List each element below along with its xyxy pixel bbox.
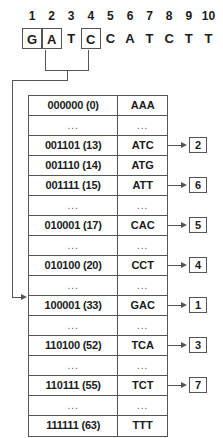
table-cell-code: 000000 (0) (29, 96, 118, 115)
sequence-base-1[interactable]: G (22, 28, 42, 49)
codon-lookup-table: 000000 (0)AAA......001101 (13)ATC001110 … (28, 95, 168, 437)
output-index-box-6[interactable]: 6 (189, 177, 207, 193)
sequence-base-10[interactable]: T (198, 28, 218, 49)
position-label-7: 7 (140, 7, 160, 25)
table-row-ellipsis[interactable]: ...... (29, 116, 167, 136)
table-row-ellipsis[interactable]: ...... (29, 276, 167, 296)
output-index-box-2[interactable]: 2 (189, 137, 207, 153)
table-cell-codon: ... (118, 356, 167, 375)
table-row[interactable]: 110100 (52)TCA (29, 336, 167, 356)
table-cell-code: 100001 (33) (29, 296, 118, 315)
connector-to-left-rail (12, 80, 68, 81)
position-label-4: 4 (81, 7, 101, 25)
table-cell-codon: ... (118, 116, 167, 135)
table-cell-codon: AAA (118, 96, 167, 115)
table-cell-code: ... (29, 356, 118, 375)
table-row[interactable]: 001101 (13)ATC (29, 136, 167, 156)
output-arrowhead-1 (181, 302, 187, 308)
table-row[interactable]: 000000 (0)AAA (29, 96, 167, 116)
sequence-base-3[interactable]: T (61, 28, 81, 49)
table-cell-codon: ... (118, 396, 167, 415)
output-index-box-5[interactable]: 5 (189, 217, 207, 233)
table-cell-code: ... (29, 196, 118, 215)
sequence-base-7[interactable]: T (140, 28, 160, 49)
position-label-5: 5 (100, 7, 120, 25)
table-row[interactable]: 001111 (15)ATT (29, 176, 167, 196)
dna-sequence-row: GATCCATCTT (22, 28, 218, 50)
table-cell-codon: TCA (118, 336, 167, 355)
position-label-10: 10 (198, 7, 218, 25)
table-cell-codon: ... (118, 236, 167, 255)
table-row[interactable]: 001110 (14)ATG (29, 156, 167, 176)
table-cell-codon: ... (118, 316, 167, 335)
connector-join-drop (67, 70, 68, 80)
output-connector-line-1 (168, 305, 182, 306)
position-label-1: 1 (22, 7, 42, 25)
table-cell-code: 001111 (15) (29, 176, 118, 195)
table-cell-codon: ... (118, 196, 167, 215)
table-cell-code: ... (29, 276, 118, 295)
sequence-base-6[interactable]: A (120, 28, 140, 49)
table-cell-codon: ... (118, 276, 167, 295)
output-index-box-1[interactable]: 1 (189, 297, 207, 313)
table-cell-codon: CAC (118, 216, 167, 235)
output-connector-line-5 (168, 225, 182, 226)
table-row-ellipsis[interactable]: ...... (29, 236, 167, 256)
table-row-ellipsis[interactable]: ...... (29, 316, 167, 336)
table-row[interactable]: 010100 (20)CCT (29, 256, 167, 276)
output-connector-line-6 (168, 185, 182, 186)
output-connector-line-7 (168, 385, 182, 386)
position-label-3: 3 (61, 7, 81, 25)
table-cell-code: ... (29, 396, 118, 415)
output-connector-line-2 (168, 145, 182, 146)
sequence-base-4[interactable]: C (81, 28, 101, 49)
output-index-box-3[interactable]: 3 (189, 337, 207, 353)
connector-left-rail (12, 80, 13, 297)
position-label-9: 9 (179, 7, 199, 25)
connector-from-base-a (45, 50, 46, 70)
table-cell-code: ... (29, 236, 118, 255)
table-cell-codon: ATG (118, 156, 167, 175)
position-label-2: 2 (42, 7, 62, 25)
output-arrowhead-6 (181, 182, 187, 188)
output-connector-line-4 (168, 265, 182, 266)
table-cell-codon: ATC (118, 136, 167, 155)
position-label-6: 6 (120, 7, 140, 25)
table-cell-code: 110100 (52) (29, 336, 118, 355)
table-cell-code: 110111 (55) (29, 376, 118, 395)
position-label-8: 8 (159, 7, 179, 25)
table-row-ellipsis[interactable]: ...... (29, 396, 167, 416)
table-row-ellipsis[interactable]: ...... (29, 196, 167, 216)
table-row-ellipsis[interactable]: ...... (29, 356, 167, 376)
table-cell-codon: TTT (118, 416, 167, 436)
table-cell-code: 111111 (63) (29, 416, 118, 436)
output-index-box-7[interactable]: 7 (189, 377, 207, 393)
table-cell-code: 001101 (13) (29, 136, 118, 155)
sequence-base-5[interactable]: C (100, 28, 120, 49)
table-cell-code: 001110 (14) (29, 156, 118, 175)
table-cell-codon: GAC (118, 296, 167, 315)
output-arrowhead-5 (181, 222, 187, 228)
sequence-base-9[interactable]: T (179, 28, 199, 49)
table-cell-code: ... (29, 116, 118, 135)
output-connector-line-3 (168, 345, 182, 346)
sequence-base-8[interactable]: C (159, 28, 179, 49)
position-index-row: 12345678910 (22, 7, 218, 25)
table-row[interactable]: 010001 (17)CAC (29, 216, 167, 236)
table-row[interactable]: 100001 (33)GAC (29, 296, 167, 316)
output-arrowhead-3 (181, 342, 187, 348)
output-arrowhead-2 (181, 142, 187, 148)
table-cell-codon: ATT (118, 176, 167, 195)
table-cell-codon: TCT (118, 376, 167, 395)
table-cell-code: ... (29, 316, 118, 335)
table-row[interactable]: 110111 (55)TCT (29, 376, 167, 396)
connector-from-base-c (88, 50, 89, 70)
output-index-box-4[interactable]: 4 (189, 257, 207, 273)
output-arrowhead-4 (181, 262, 187, 268)
table-cell-codon: CCT (118, 256, 167, 275)
output-arrowhead-7 (181, 382, 187, 388)
sequence-base-2[interactable]: A (42, 28, 62, 49)
table-cell-code: 010001 (17) (29, 216, 118, 235)
table-cell-code: 010100 (20) (29, 256, 118, 275)
table-row[interactable]: 111111 (63)TTT (29, 416, 167, 436)
